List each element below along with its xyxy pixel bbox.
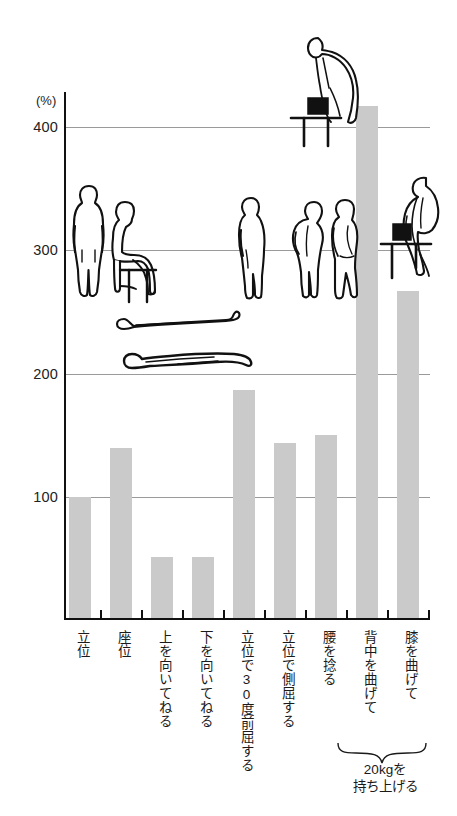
y-tick-label-400: 400: [14, 119, 58, 135]
side-bend-figure: [286, 198, 328, 300]
knees-bent-lifting-figure: [396, 172, 452, 280]
y-axis-unit-label: (%): [36, 93, 56, 108]
back-bent-lifting-figure: [296, 32, 362, 124]
annotation-line-1: 20kgを: [330, 762, 440, 779]
bar-chart: (%) 400 300 200 100 立位 座位 上を向いてねる 下を向いてね…: [0, 0, 457, 816]
weight-box-icon: [302, 96, 336, 118]
bar-立位で側屈する: [274, 443, 296, 618]
x-tick-9: [428, 610, 430, 618]
x-tick-7: [346, 610, 348, 618]
stool-icon: [116, 262, 162, 308]
lying-supine-figure: [114, 306, 244, 338]
bar-下を向いてねる: [192, 557, 214, 618]
annotation-brace: [336, 742, 428, 764]
x-tick-5: [264, 610, 266, 618]
bar-膝を曲げて: [397, 291, 419, 618]
bar-背中を曲げて: [356, 106, 378, 618]
sitting-figure: [108, 198, 160, 300]
y-axis-line: [64, 92, 66, 620]
lying-prone-figure: [120, 340, 256, 376]
annotation-lift-20kg: 20kgを 持ち上げる: [330, 762, 440, 796]
category-label-座位: 座位: [112, 630, 130, 658]
category-label-立位: 立位: [71, 630, 89, 658]
category-label-立位で30度前屈する: 立位で30度前屈する: [235, 630, 253, 772]
category-label-膝を曲げて: 膝を曲げて: [399, 630, 417, 700]
bar-腰を捻る: [315, 435, 337, 618]
x-tick-3: [182, 610, 184, 618]
category-label-立位で側屈する: 立位で側屈する: [276, 630, 294, 728]
bar-座位: [110, 448, 132, 618]
x-tick-4: [223, 610, 225, 618]
x-tick-8: [387, 610, 389, 618]
category-label-下を向いてねる: 下を向いてねる: [194, 630, 212, 728]
x-tick-1: [100, 610, 102, 618]
category-label-上を向いてねる: 上を向いてねる: [153, 630, 171, 728]
category-label-腰を捻る: 腰を捻る: [317, 630, 335, 686]
bench-icon: [378, 238, 434, 280]
table-icon: [288, 112, 344, 148]
y-tick-label-200: 200: [14, 366, 58, 382]
x-axis-line: [64, 618, 430, 620]
bar-立位: [69, 497, 91, 618]
bar-立位で30度前屈する: [233, 390, 255, 618]
forward-bend-figure: [234, 194, 268, 300]
annotation-line-2: 持ち上げる: [330, 779, 440, 796]
standing-figure: [68, 182, 110, 300]
category-label-背中を曲げて: 背中を曲げて: [358, 630, 376, 714]
x-tick-2: [141, 610, 143, 618]
y-tick-label-300: 300: [14, 242, 58, 258]
y-tick-label-100: 100: [14, 489, 58, 505]
bar-上を向いてねる: [151, 557, 173, 618]
weight-box-icon-2: [390, 222, 416, 244]
x-tick-6: [305, 610, 307, 618]
